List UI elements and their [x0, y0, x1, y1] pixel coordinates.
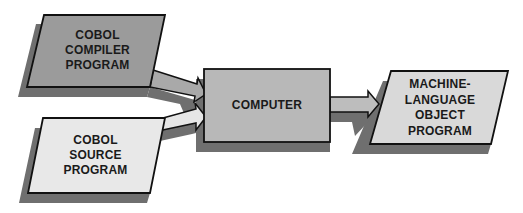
- compiler-program-label: COBOL COMPILER PROGRAM: [40, 28, 155, 73]
- computer-label: COMPUTER: [204, 98, 330, 113]
- source-program-label: COBOL SOURCE PROGRAM: [38, 133, 153, 178]
- label-line: COBOL: [40, 28, 155, 43]
- label-line: PROGRAM: [40, 58, 155, 73]
- cobol-compilation-diagram: COBOL COMPILER PROGRAM COBOL SOURCE PROG…: [0, 0, 523, 213]
- label-line: PROGRAM: [38, 163, 153, 178]
- label-line: SOURCE: [38, 148, 153, 163]
- label-line: PROGRAM: [380, 124, 500, 140]
- label-line: MACHINE-: [380, 77, 500, 93]
- label-line: COBOL: [38, 133, 153, 148]
- label-line: LANGUAGE: [380, 93, 500, 109]
- output-program-label: MACHINE- LANGUAGE OBJECT PROGRAM: [380, 77, 500, 139]
- label-line: COMPUTER: [204, 98, 330, 113]
- label-line: COMPILER: [40, 43, 155, 58]
- label-line: OBJECT: [380, 108, 500, 124]
